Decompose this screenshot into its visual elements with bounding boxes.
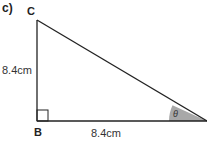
vertex-c-label: C <box>27 5 35 17</box>
angle-theta-label: θ <box>173 109 178 119</box>
question-label: c) <box>2 1 13 15</box>
triangle-diagram: c) C B 8.4cm 8.4cm θ <box>0 0 207 145</box>
side-horizontal-length: 8.4cm <box>91 127 121 139</box>
side-hypotenuse <box>37 20 207 121</box>
side-vertical-length: 8.4cm <box>2 64 32 76</box>
vertex-b-label: B <box>34 126 42 138</box>
right-angle-marker <box>37 110 48 121</box>
